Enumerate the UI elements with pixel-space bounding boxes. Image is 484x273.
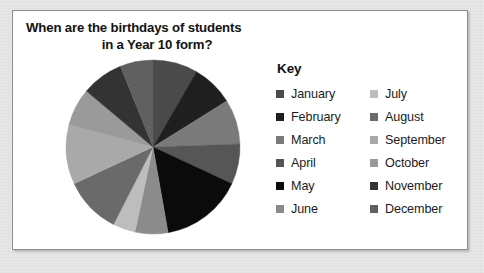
legend-swatch-icon bbox=[370, 90, 378, 98]
legend-item-label: July bbox=[385, 87, 407, 101]
legend-item-label: September bbox=[385, 133, 446, 147]
legend-item-label: June bbox=[291, 202, 318, 216]
legend-item-label: April bbox=[291, 156, 316, 170]
legend-item-march[interactable]: March bbox=[265, 128, 368, 151]
legend-heading: Key bbox=[277, 61, 461, 76]
legend-item-april[interactable]: April bbox=[265, 151, 368, 174]
legend-item-november[interactable]: November bbox=[368, 174, 461, 197]
legend-item-label: March bbox=[291, 133, 326, 147]
page-title: When are the birthdays of students in a … bbox=[26, 19, 326, 53]
legend-item-october[interactable]: October bbox=[368, 151, 461, 174]
legend-swatch-icon bbox=[370, 159, 378, 167]
legend-item-december[interactable]: December bbox=[368, 197, 461, 220]
legend-item-label: November bbox=[385, 179, 442, 193]
legend-swatch-icon bbox=[276, 113, 284, 121]
legend-column-left: JanuaryFebruaryMarchAprilMayJune bbox=[265, 82, 368, 220]
legend-swatch-icon bbox=[370, 205, 378, 213]
legend-item-january[interactable]: January bbox=[265, 82, 368, 105]
legend-item-june[interactable]: June bbox=[265, 197, 368, 220]
legend-item-september[interactable]: September bbox=[368, 128, 461, 151]
legend-item-february[interactable]: February bbox=[265, 105, 368, 128]
pie-chart bbox=[65, 59, 241, 235]
legend-item-label: December bbox=[385, 202, 442, 216]
pie-slice-group bbox=[66, 60, 240, 234]
legend-columns: JanuaryFebruaryMarchAprilMayJune JulyAug… bbox=[265, 82, 461, 220]
legend-item-july[interactable]: July bbox=[368, 82, 461, 105]
legend-item-label: May bbox=[291, 179, 315, 193]
legend-swatch-icon bbox=[370, 113, 378, 121]
legend-swatch-icon bbox=[276, 205, 284, 213]
legend-item-label: January bbox=[291, 87, 335, 101]
legend-item-label: October bbox=[385, 156, 429, 170]
legend-swatch-icon bbox=[276, 136, 284, 144]
legend-item-label: August bbox=[385, 110, 424, 124]
legend-column-right: JulyAugustSeptemberOctoberNovemberDecemb… bbox=[368, 82, 461, 220]
legend-swatch-icon bbox=[370, 136, 378, 144]
legend-item-may[interactable]: May bbox=[265, 174, 368, 197]
chart-card: When are the birthdays of students in a … bbox=[12, 10, 468, 250]
legend-item-label: February bbox=[291, 110, 341, 124]
legend-swatch-icon bbox=[276, 182, 284, 190]
pie-chart-svg bbox=[65, 59, 241, 235]
legend-swatch-icon bbox=[276, 159, 284, 167]
legend-item-august[interactable]: August bbox=[368, 105, 461, 128]
page-title-line-2: in a Year 10 form? bbox=[26, 36, 326, 53]
legend-swatch-icon bbox=[276, 90, 284, 98]
page-title-line-1: When are the birthdays of students bbox=[26, 19, 326, 36]
legend-swatch-icon bbox=[370, 182, 378, 190]
legend: Key JanuaryFebruaryMarchAprilMayJune Jul… bbox=[265, 61, 461, 220]
